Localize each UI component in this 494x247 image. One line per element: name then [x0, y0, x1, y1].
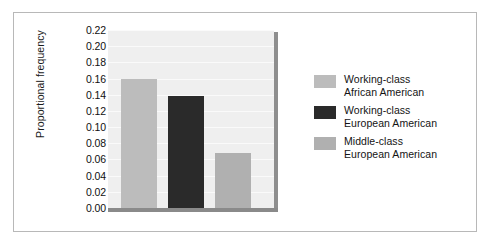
bar-chart: Proportional frequency 0.220.200.180.160…: [14, 13, 478, 233]
legend-label-line2: African American: [344, 86, 424, 99]
legend-item: Working-classEuropean American: [314, 104, 474, 129]
bar: [121, 79, 157, 208]
y-axis-tick-label: 0.06: [62, 154, 106, 165]
y-axis-tick-label: 0.12: [62, 106, 106, 117]
bar: [168, 96, 204, 208]
legend-swatch: [314, 75, 336, 88]
y-axis-tick-label: 0.14: [62, 90, 106, 101]
legend-label: Working-classAfrican American: [344, 73, 424, 98]
y-axis-tick-label: 0.04: [62, 171, 106, 182]
legend-label-line1: Working-class: [344, 73, 410, 85]
legend-label: Middle-classEuropean American: [344, 135, 437, 160]
legend-label-line2: European American: [344, 148, 437, 161]
legend-label-line2: European American: [344, 117, 437, 130]
legend-swatch: [314, 137, 336, 150]
plot-area: [108, 30, 274, 208]
plot-right-edge: [274, 32, 278, 210]
y-axis-tick-label: 0.08: [62, 138, 106, 149]
legend-label: Working-classEuropean American: [344, 104, 437, 129]
chart-legend: Working-classAfrican AmericanWorking-cla…: [314, 73, 474, 166]
y-axis-tick-labels: 0.220.200.180.160.140.120.100.080.060.04…: [62, 25, 106, 209]
y-axis-tick-label: 0.18: [62, 57, 106, 68]
y-axis-tick-label: 0.20: [62, 41, 106, 52]
legend-item: Working-classAfrican American: [314, 73, 474, 98]
gridline: [108, 46, 274, 47]
y-axis-tick-label: 0.00: [62, 203, 106, 214]
y-axis-tick-label: 0.16: [62, 74, 106, 85]
x-axis-baseline: [108, 208, 278, 212]
y-axis-title: Proportional frequency: [34, 14, 48, 154]
legend-swatch: [314, 106, 336, 119]
legend-label-line1: Working-class: [344, 104, 410, 116]
bar: [215, 153, 251, 208]
figure-frame: Proportional frequency 0.220.200.180.160…: [13, 12, 477, 232]
y-axis-tick-label: 0.22: [62, 25, 106, 36]
y-axis-tick-label: 0.02: [62, 187, 106, 198]
gridline: [108, 62, 274, 63]
gridline: [108, 30, 274, 31]
legend-label-line1: Middle-class: [344, 135, 403, 147]
legend-item: Middle-classEuropean American: [314, 135, 474, 160]
y-axis-tick-label: 0.10: [62, 122, 106, 133]
